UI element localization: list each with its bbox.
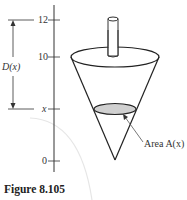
cross-section-ellipse <box>94 104 136 115</box>
leader-arrow-icon <box>123 114 128 120</box>
tick-label-0: 0 <box>42 155 47 166</box>
arrow-down-icon <box>11 103 16 109</box>
shaft-cover <box>109 46 118 55</box>
area-label: Area A(x) <box>144 138 184 150</box>
tick-label-12: 12 <box>38 14 48 25</box>
figure-caption: Figure 8.105 <box>4 183 65 195</box>
tick-label-10: 10 <box>38 51 48 62</box>
arrow-up-icon <box>11 20 16 26</box>
cone-diagram: 12 10 x 0 D(x) Area A(x) <box>0 0 187 200</box>
shaft-top <box>108 17 118 21</box>
dimension-label: D(x) <box>1 61 21 73</box>
tick-label-x: x <box>41 103 47 114</box>
